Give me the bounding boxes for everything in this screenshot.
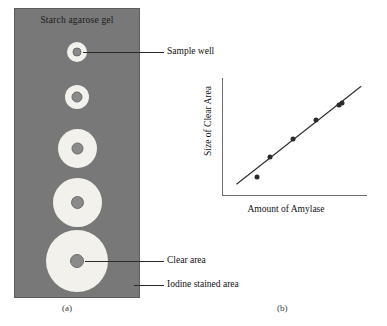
- data-point-3: [291, 137, 296, 142]
- data-point-1: [254, 175, 259, 180]
- panel-b-scatter-plot: Size of Clear Area Amount of Amylase: [200, 78, 372, 223]
- data-point-6: [340, 100, 345, 105]
- plot-frame: [222, 78, 367, 196]
- leader-line-sample-well: [83, 52, 165, 53]
- y-axis-label: Size of Clear Area: [203, 61, 213, 181]
- gel-title-label: Starch agarose gel: [14, 15, 140, 25]
- caption-panel-b: (b): [277, 303, 288, 313]
- sample-well-5: [70, 254, 84, 268]
- data-point-4: [314, 118, 319, 123]
- callout-sample-well: Sample well: [167, 46, 214, 56]
- gel-well-group-3: [58, 129, 97, 168]
- leader-line-iodine-stained-area: [134, 285, 164, 286]
- gel-well-group-2: [65, 85, 89, 109]
- sample-well-3: [71, 142, 83, 154]
- leader-line-clear-area: [85, 261, 164, 262]
- callout-clear-area: Clear area: [167, 255, 206, 265]
- gel-well-group-4: [53, 178, 102, 227]
- callout-iodine-stained-area: Iodine stained area: [167, 279, 239, 289]
- sample-well-1: [73, 48, 82, 57]
- x-axis-label: Amount of Amylase: [200, 204, 372, 214]
- figure-container: Starch agarose gel Sample well Clear are…: [0, 0, 387, 326]
- data-point-2: [267, 155, 272, 160]
- sample-well-2: [72, 92, 83, 103]
- sample-well-4: [71, 196, 84, 209]
- caption-panel-a: (a): [62, 303, 72, 313]
